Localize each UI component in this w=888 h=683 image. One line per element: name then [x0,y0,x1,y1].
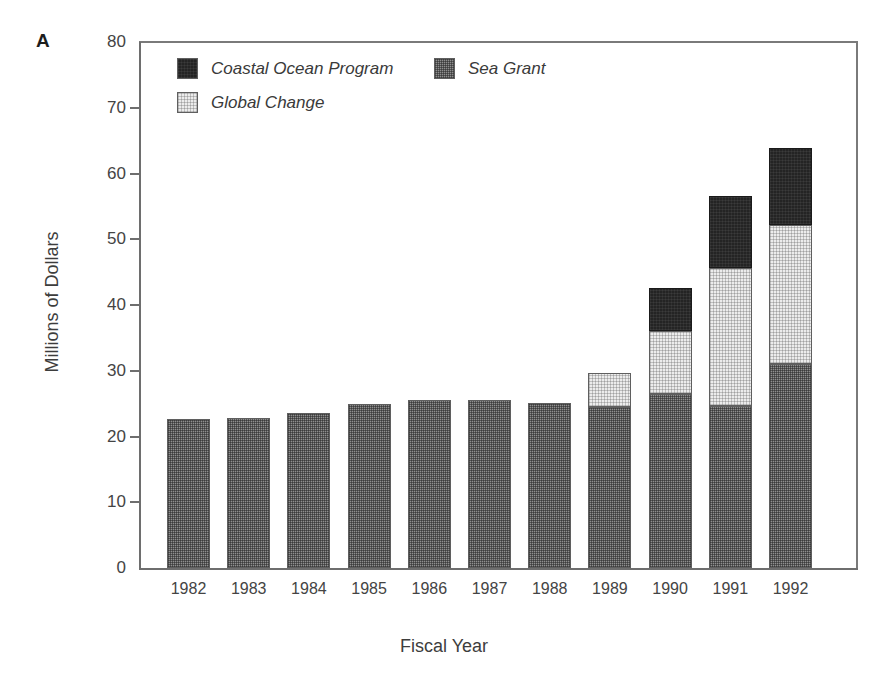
y-tick-label: 0 [86,558,126,578]
bar-group[interactable] [408,42,451,568]
bar-segment-coastal-ocean-program[interactable] [769,148,812,225]
y-axis-label: Millions of Dollars [42,231,63,372]
y-tick-mark [130,107,139,109]
bar-group[interactable] [287,42,330,568]
y-tick-mark [130,173,139,175]
y-tick-label: 20 [86,427,126,447]
legend-item-coastal-ocean-program: Coastal Ocean Program [177,58,393,79]
y-tick-label: 70 [86,98,126,118]
panel-letter: A [36,30,50,52]
bar-segment-sea-grant[interactable] [227,418,270,568]
bar-segment-sea-grant[interactable] [709,406,752,568]
y-tick-mark [130,370,139,372]
bar-group[interactable] [528,42,571,568]
bar-segment-sea-grant[interactable] [468,400,511,568]
bar-segment-sea-grant[interactable] [769,364,812,568]
legend-item-global-change: Global Change [177,92,324,113]
x-axis-label: Fiscal Year [0,636,888,657]
bar-segment-coastal-ocean-program[interactable] [709,196,752,268]
y-tick-label: 60 [86,164,126,184]
bar-segment-global-change[interactable] [709,268,752,406]
x-tick-label: 1992 [751,580,831,598]
bar-segment-sea-grant[interactable] [528,403,571,568]
bar-group[interactable] [227,42,270,568]
coastal-ocean-swatch-icon [177,58,198,79]
y-tick-mark [130,436,139,438]
bar-group[interactable] [769,42,812,568]
y-tick-label: 10 [86,492,126,512]
legend-label-coastal-ocean-program: Coastal Ocean Program [211,59,393,79]
bar-segment-global-change[interactable] [769,225,812,364]
figure-panel-a: A Millions of Dollars 01020304050607080 … [0,0,888,683]
bar-segment-global-change[interactable] [649,331,692,393]
legend-label-global-change: Global Change [211,93,324,113]
bar-segment-global-change[interactable] [588,373,631,407]
y-tick-mark [130,304,139,306]
bar-group[interactable] [709,42,752,568]
bar-segment-coastal-ocean-program[interactable] [649,288,692,331]
legend-label-sea-grant: Sea Grant [468,59,546,79]
y-tick-mark [130,238,139,240]
sea-grant-swatch-icon [434,58,455,79]
bar-group[interactable] [649,42,692,568]
legend-item-sea-grant: Sea Grant [434,58,546,79]
bar-segment-sea-grant[interactable] [408,400,451,568]
bar-segment-sea-grant[interactable] [167,419,210,568]
y-tick-label: 30 [86,361,126,381]
bar-segment-sea-grant[interactable] [348,404,391,568]
bar-segment-sea-grant[interactable] [588,407,631,568]
y-tick-label: 50 [86,229,126,249]
bar-segment-sea-grant[interactable] [287,413,330,568]
bar-group[interactable] [468,42,511,568]
bar-group[interactable] [167,42,210,568]
y-tick-mark [130,501,139,503]
y-tick-label: 80 [86,32,126,52]
bar-segment-sea-grant[interactable] [649,394,692,568]
bar-group[interactable] [588,42,631,568]
bar-group[interactable] [348,42,391,568]
global-change-swatch-icon [177,92,198,113]
y-tick-label: 40 [86,295,126,315]
